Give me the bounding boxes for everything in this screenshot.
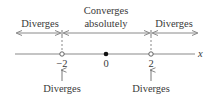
left-region-label: Diverges (21, 18, 59, 29)
tick-label-0: 0 (103, 58, 108, 69)
center-filled-dot (104, 52, 109, 57)
convergence-diagram: Diverges Converges absolutely Diverges x… (0, 0, 210, 99)
middle-region-label-line1: Converges (84, 5, 129, 16)
open-endpoint-marker-right (149, 52, 153, 56)
right-region-label: Diverges (155, 18, 193, 29)
tick-label-neg2: −2 (56, 58, 67, 69)
middle-region-label-line2: absolutely (84, 18, 128, 29)
open-endpoint-marker-left (60, 52, 64, 56)
left-endpoint-label: Diverges (43, 83, 81, 94)
x-axis-label: x (197, 48, 203, 59)
right-endpoint-label: Diverges (132, 83, 170, 94)
region-bracket-line (17, 30, 197, 36)
tick-label-2: 2 (148, 58, 153, 69)
